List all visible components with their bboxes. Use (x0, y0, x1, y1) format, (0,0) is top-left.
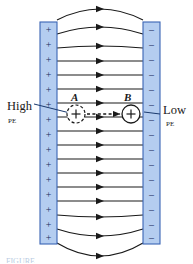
plate-charge-minus: – (148, 159, 155, 170)
figure-container: +++++++++++++++ ––––––––––––––– High PE … (0, 0, 193, 264)
field-line-arrowhead (96, 128, 104, 135)
plate-charge-minus: – (148, 189, 155, 200)
capacitor-field-diagram: +++++++++++++++ ––––––––––––––– (0, 0, 193, 264)
plate-charge-plus: + (46, 232, 52, 243)
field-line-arrowhead (96, 142, 104, 149)
figure-caption: FIGURE (6, 258, 98, 263)
plate-charge-plus: + (46, 129, 52, 140)
plate-charge-plus: + (46, 189, 52, 200)
plate-charge-plus: + (46, 159, 52, 170)
field-line-arrowhead (96, 24, 104, 31)
high-pe-sublabel: PE (8, 118, 17, 125)
plate-charge-plus: + (46, 219, 52, 230)
electric-field-lines (57, 6, 143, 260)
low-pe-sublabel: PE (166, 121, 175, 128)
field-line-arrowhead (96, 72, 104, 79)
low-pe-label: Low (163, 104, 186, 117)
plate-charge-plus: + (46, 24, 52, 35)
field-line-arrowhead (96, 214, 104, 221)
plate-charge-minus: – (148, 219, 155, 230)
plate-charge-plus: + (46, 39, 52, 50)
plate-charge-minus: – (148, 204, 155, 215)
plate-charge-plus: + (46, 84, 52, 95)
field-line-arrowhead (96, 86, 104, 93)
field-line-arrowhead (96, 114, 104, 121)
field-line (57, 243, 143, 256)
plate-charge-plus: + (46, 144, 52, 155)
plate-charge-plus: + (46, 54, 52, 65)
plate-charge-plus: + (46, 69, 52, 80)
field-line-arrowhead (96, 58, 104, 65)
plate-charge-minus: – (148, 99, 155, 110)
plate-charge-minus: – (148, 174, 155, 185)
plate-charge-plus: + (46, 174, 52, 185)
field-line-arrowhead (96, 6, 104, 13)
plate-charge-minus: – (148, 129, 155, 140)
field-line-arrowhead (96, 198, 104, 205)
plate-charge-minus: – (148, 84, 155, 95)
field-line-arrowhead (96, 43, 104, 50)
charge-a (67, 105, 85, 123)
charge-a-label: A (71, 92, 78, 103)
plate-charge-minus: – (148, 24, 155, 35)
charge-b (122, 105, 140, 123)
plate-charge-minus: – (148, 114, 155, 125)
plate-charge-plus: + (46, 204, 52, 215)
field-line-arrowhead (96, 156, 104, 163)
field-line-arrowhead (96, 170, 104, 177)
plate-charge-plus: + (46, 114, 52, 125)
field-line-arrowhead (96, 233, 104, 240)
field-line-arrowhead (96, 184, 104, 191)
plate-charge-minus: – (148, 232, 155, 243)
high-pe-label: High (7, 100, 32, 113)
plate-charge-minus: – (148, 69, 155, 80)
plate-charge-plus: + (46, 99, 52, 110)
left-plate-charge-signs: +++++++++++++++ (46, 24, 52, 243)
plate-charge-minus: – (148, 39, 155, 50)
plate-charge-minus: – (148, 54, 155, 65)
plate-charge-minus: – (148, 144, 155, 155)
right-plate-charge-signs: ––––––––––––––– (148, 24, 155, 243)
charge-b-label: B (124, 92, 131, 103)
field-line-arrowhead (96, 100, 104, 107)
